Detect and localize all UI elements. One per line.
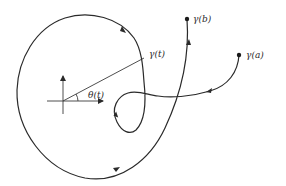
angle-arc xyxy=(76,94,78,101)
endpoint-gamma-b xyxy=(185,17,189,21)
label-gamma-a: γ(a) xyxy=(246,50,264,60)
label-gamma-t: γ(t) xyxy=(149,49,166,59)
winding-diagram: γ(b) γ(a) γ(t) θ(t) xyxy=(0,0,286,186)
endpoint-gamma-a xyxy=(237,53,241,57)
direction-arrow-icon xyxy=(113,167,120,172)
label-theta-t: θ(t) xyxy=(88,90,105,100)
label-gamma-b: γ(b) xyxy=(193,14,212,24)
curve-gamma xyxy=(17,15,239,179)
